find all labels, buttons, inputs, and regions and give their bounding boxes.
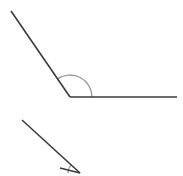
angle-diagram-svg: [0, 0, 183, 176]
geometry-figure-canvas: [0, 0, 183, 176]
canvas-background: [0, 0, 183, 176]
